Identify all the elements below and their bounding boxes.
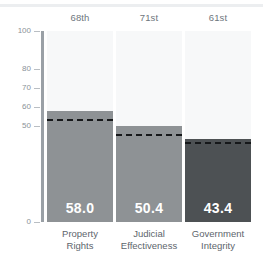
y-tick-mark-50 <box>34 126 40 127</box>
y-tick-mark-0 <box>34 222 40 223</box>
bar-value-judicial-effectiveness: 50.4 <box>116 200 182 216</box>
category-label-line2: Integrity <box>178 240 258 252</box>
y-tick-label-80: 80 <box>0 65 31 73</box>
y-tick-label-100: 100 <box>0 27 31 35</box>
category-label-property-rights: Property Rights <box>40 228 120 251</box>
reference-line-government-integrity <box>185 142 251 144</box>
category-label-line1: Government <box>178 228 258 240</box>
y-tick-label-70: 70 <box>0 84 31 92</box>
category-label-line1: Judicial <box>109 228 189 240</box>
category-label-government-integrity: Government Integrity <box>178 228 258 251</box>
y-tick-mark-60 <box>34 107 40 108</box>
y-tick-mark-100 <box>34 31 40 32</box>
category-label-line1: Property <box>40 228 120 240</box>
y-tick-label-50: 50 <box>0 122 31 130</box>
plot-area: 100 80 70 60 50 0 58.0 50.4 43.4 Propert… <box>0 0 263 263</box>
bar-chart: 68th 71st 61st 100 80 70 60 50 0 58.0 50… <box>0 0 263 263</box>
category-label-line2: Rights <box>40 240 120 252</box>
y-axis-line <box>41 31 44 222</box>
category-label-judicial-effectiveness: Judicial Effectiveness <box>109 228 189 251</box>
y-tick-label-60: 60 <box>0 103 31 111</box>
reference-line-property-rights <box>47 119 113 121</box>
category-label-line2: Effectiveness <box>109 240 189 252</box>
y-tick-mark-70 <box>34 88 40 89</box>
y-tick-label-0: 0 <box>0 218 31 226</box>
reference-line-judicial-effectiveness <box>116 134 182 136</box>
bar-value-property-rights: 58.0 <box>47 200 113 216</box>
bar-property-rights[interactable]: 58.0 <box>47 111 113 222</box>
bar-value-government-integrity: 43.4 <box>185 200 251 216</box>
bar-government-integrity[interactable]: 43.4 <box>185 139 251 222</box>
bar-judicial-effectiveness[interactable]: 50.4 <box>116 126 182 222</box>
y-tick-mark-80 <box>34 69 40 70</box>
